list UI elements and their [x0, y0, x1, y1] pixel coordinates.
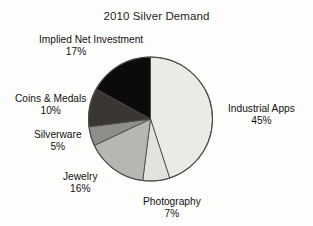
- slice-label-industrial-apps: Industrial Apps 45%: [228, 103, 295, 127]
- slice-label-jewelry-name: Jewelry: [63, 171, 98, 183]
- slice-label-jewelry-value: 16%: [63, 183, 98, 195]
- slice-label-silverware-value: 5%: [34, 141, 82, 153]
- pie-chart-figure: 2010 Silver Demand Industrial Apps 45% P…: [0, 0, 313, 226]
- slice-label-photography: Photography 7%: [143, 196, 201, 220]
- slice-label-coins-medals-name: Coins & Medals: [15, 93, 86, 105]
- slice-label-photography-name: Photography: [143, 196, 201, 208]
- slice-label-silverware-name: Silverware: [34, 129, 82, 141]
- slice-label-silverware: Silverware 5%: [34, 129, 82, 153]
- slice-label-industrial-apps-value: 45%: [228, 115, 295, 127]
- slice-label-implied-net-investment: Implied Net Investment 17%: [39, 34, 113, 58]
- slice-label-coins-medals-value: 10%: [15, 105, 86, 117]
- slice-label-industrial-apps-name: Industrial Apps: [228, 103, 295, 115]
- slice-label-photography-value: 7%: [143, 208, 201, 220]
- slice-label-jewelry: Jewelry 16%: [63, 171, 98, 195]
- slice-label-coins-medals: Coins & Medals 10%: [15, 93, 86, 117]
- pie-slice-group: [89, 57, 213, 181]
- slice-label-implied-net-investment-name: Implied Net Investment: [39, 34, 113, 46]
- slice-label-implied-net-investment-value: 17%: [39, 46, 113, 58]
